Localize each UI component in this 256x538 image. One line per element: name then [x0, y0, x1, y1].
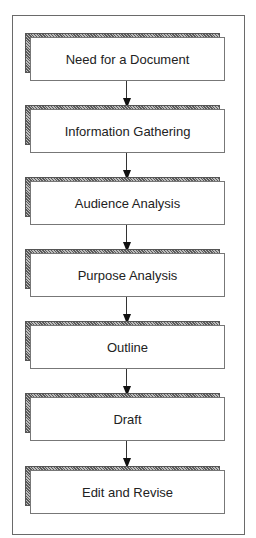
- step-box: Information Gathering: [30, 109, 225, 153]
- step-box: Edit and Revise: [30, 470, 225, 514]
- step-box: Outline: [30, 325, 225, 369]
- step-label: Audience Analysis: [75, 196, 181, 211]
- step-label: Outline: [107, 340, 148, 355]
- step-information-gathering: Information Gathering: [25, 105, 225, 153]
- step-audience-analysis: Audience Analysis: [25, 177, 225, 225]
- step-label: Edit and Revise: [82, 485, 173, 500]
- step-label: Information Gathering: [65, 124, 191, 139]
- step-box: Draft: [30, 397, 225, 441]
- step-edit-and-revise: Edit and Revise: [25, 466, 225, 514]
- step-purpose-analysis: Purpose Analysis: [25, 249, 225, 297]
- step-box: Need for a Document: [30, 37, 225, 81]
- step-label: Draft: [113, 412, 141, 427]
- step-label: Need for a Document: [66, 52, 190, 67]
- step-box: Purpose Analysis: [30, 253, 225, 297]
- step-draft: Draft: [25, 393, 225, 441]
- step-label: Purpose Analysis: [78, 268, 178, 283]
- step-outline: Outline: [25, 321, 225, 369]
- step-need-for-document: Need for a Document: [25, 33, 225, 81]
- step-box: Audience Analysis: [30, 181, 225, 225]
